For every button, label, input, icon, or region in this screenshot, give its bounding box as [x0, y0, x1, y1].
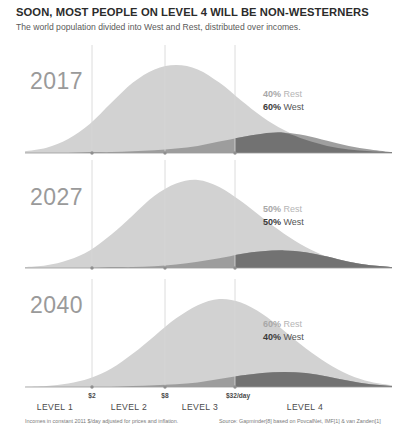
legend-rest-label: Rest	[284, 204, 303, 214]
axis-level-1: LEVEL 1	[37, 402, 73, 412]
legend-row-west: 50% West	[263, 216, 304, 229]
panel-year-2017: 2017	[30, 68, 83, 95]
footnote-incomes: Incomes in constant 2011 $/day adjusted …	[25, 418, 178, 424]
panel-year-2040: 2040	[30, 292, 83, 319]
footnote-source: Source: Gapminder[8] based on PovcalNet,…	[219, 418, 381, 424]
legend-row-rest: 40% Rest	[263, 88, 304, 101]
axis-level-4: LEVEL 4	[287, 402, 323, 412]
chart-root: SOON, MOST PEOPLE ON LEVEL 4 WILL BE NON…	[0, 0, 407, 442]
legend-west-label: West	[284, 102, 304, 112]
legend-rest-pct: 60%	[263, 319, 281, 329]
legend-west-label: West	[284, 217, 304, 227]
panel-year-2027: 2027	[30, 184, 83, 211]
axis-tick-32: $32/day	[226, 392, 250, 399]
axis-tick-2: $2	[88, 392, 95, 399]
axis-level-3: LEVEL 3	[182, 402, 218, 412]
legend-west-pct: 50%	[263, 217, 281, 227]
legend-west-label: West	[284, 332, 304, 342]
legend-row-west: 40% West	[263, 331, 304, 344]
legend-2040: 60% Rest 40% West	[263, 318, 304, 344]
legend-row-rest: 60% Rest	[263, 318, 304, 331]
legend-2027: 50% Rest 50% West	[263, 203, 304, 229]
legend-2017: 40% Rest 60% West	[263, 88, 304, 114]
legend-rest-pct: 50%	[263, 204, 281, 214]
legend-rest-label: Rest	[284, 319, 303, 329]
legend-west-pct: 60%	[263, 102, 281, 112]
axis-tick-8: $8	[161, 392, 168, 399]
legend-row-rest: 50% Rest	[263, 203, 304, 216]
legend-west-pct: 40%	[263, 332, 281, 342]
plot-area	[0, 0, 407, 442]
legend-row-west: 60% West	[263, 101, 304, 114]
legend-rest-pct: 40%	[263, 89, 281, 99]
legend-rest-label: Rest	[284, 89, 303, 99]
distribution-curves	[0, 0, 407, 442]
axis-level-2: LEVEL 2	[111, 402, 147, 412]
